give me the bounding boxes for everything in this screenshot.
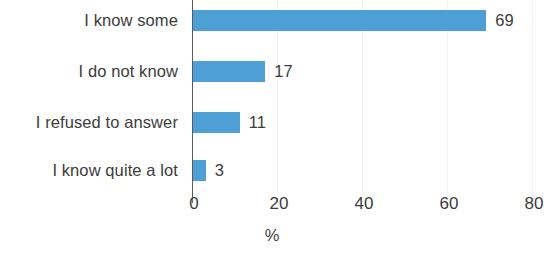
bar-value-label: 11: [249, 112, 266, 133]
y-axis-line: [192, 0, 193, 196]
category-axis-labels: I know some I do not know I refused to a…: [0, 0, 178, 196]
x-tick-label: 0: [189, 193, 198, 215]
x-tick-label: 40: [355, 193, 374, 215]
x-axis-title-wrap: %: [0, 225, 544, 245]
bar-know-quite-a-lot: [193, 160, 206, 181]
x-tick-label: 20: [270, 193, 289, 215]
category-label: I know some: [0, 10, 178, 31]
bar-value-label: 17: [274, 61, 293, 82]
bar-refused: [193, 112, 240, 133]
category-label: I refused to answer: [0, 112, 178, 133]
x-axis-title: %: [265, 225, 280, 245]
x-tick-label: 60: [440, 193, 459, 215]
bar-know-some: [193, 10, 486, 31]
bar-value-label: 3: [215, 160, 224, 181]
category-label: I do not know: [0, 61, 178, 82]
gridline-80: [532, 0, 533, 196]
plot-area: 69 17 11 3: [192, 0, 544, 196]
bar-chart: I know some I do not know I refused to a…: [0, 0, 544, 253]
category-label: I know quite a lot: [0, 160, 178, 181]
bar-value-label: 69: [495, 10, 514, 31]
x-tick-label: 80: [525, 193, 544, 215]
bar-do-not-know: [193, 61, 265, 82]
